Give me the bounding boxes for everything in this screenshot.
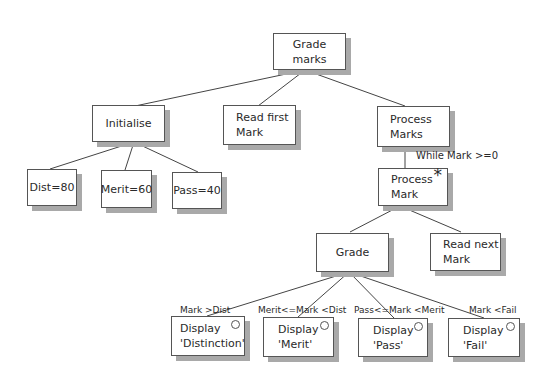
node-label-line1: Read next	[443, 237, 500, 252]
node-read-first-mark: Read first Mark	[223, 105, 296, 145]
iteration-star-icon: *	[434, 167, 443, 184]
node-label-line2: Mark	[236, 125, 295, 140]
condition-fail: Mark <Fail	[469, 305, 516, 315]
node-label-line2: Marks	[390, 127, 449, 142]
node-label-line2: 'Distinction'	[180, 336, 244, 351]
node-grade: Grade	[316, 233, 389, 272]
node-label: Initialise	[106, 116, 152, 131]
node-process-marks: Process Marks	[377, 106, 450, 147]
node-pass: Pass=40	[172, 172, 222, 209]
node-label: Merit=60	[101, 182, 152, 197]
node-initialise: Initialise	[92, 105, 165, 142]
node-merit: Merit=60	[101, 170, 152, 208]
node-label: Pass=40	[173, 183, 221, 198]
node-label-line2: 'Fail'	[463, 338, 519, 353]
selection-circle-icon	[414, 322, 423, 331]
node-dist: Dist=80	[27, 169, 77, 206]
selection-circle-icon	[506, 322, 515, 331]
node-label: Grade	[336, 245, 370, 260]
node-label-line1: Process	[390, 112, 449, 127]
node-display-distinction: Display 'Distinction'	[171, 316, 245, 356]
condition-pass: Pass<=Mark <Merit	[354, 305, 445, 315]
while-condition: While Mark >=0	[416, 150, 498, 161]
node-display-merit: Display 'Merit'	[263, 317, 334, 357]
node-label-line2: 'Merit'	[278, 337, 333, 352]
node-read-next-mark: Read next Mark	[430, 233, 501, 271]
node-label-line1: Read first	[236, 110, 295, 125]
node-label-line2: Mark	[443, 252, 500, 267]
node-label-line2: Mark	[391, 187, 447, 202]
node-display-fail: Display 'Fail'	[448, 318, 520, 357]
node-process-mark: Process Mark *	[378, 168, 448, 206]
condition-merit: Merit<=Mark <Dist	[258, 305, 346, 315]
condition-distinction: Mark >Dist	[180, 305, 230, 315]
node-label: Grade marks	[274, 37, 345, 67]
node-display-pass: Display 'Pass'	[358, 318, 428, 357]
node-grade-marks: Grade marks	[273, 33, 346, 70]
node-label: Dist=80	[30, 180, 75, 195]
selection-circle-icon	[231, 320, 240, 329]
selection-circle-icon	[320, 321, 329, 330]
node-label-line2: 'Pass'	[373, 338, 427, 353]
